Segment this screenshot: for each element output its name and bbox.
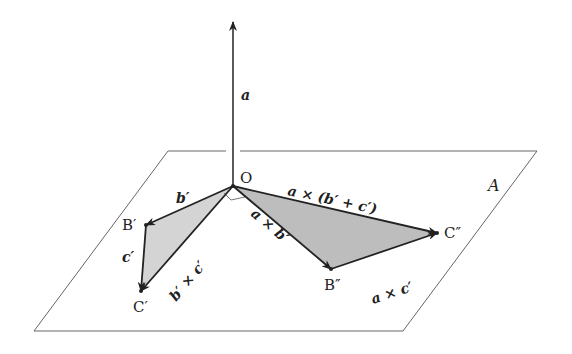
vector-diagram-svg: A O B′ C′ B″ C″ a b′ c′ b′ × c′ a × b′ a…	[0, 0, 572, 354]
point-B-double	[329, 267, 333, 271]
label-vector-a: a	[241, 87, 250, 103]
point-O	[231, 184, 235, 188]
diagram: A O B′ C′ B″ C″ a b′ c′ b′ × c′ a × b′ a…	[0, 0, 572, 354]
label-vector-a-cross-c: a × c′	[369, 278, 415, 307]
plane-label: A	[486, 176, 500, 195]
point-B-prime	[144, 223, 148, 227]
label-vector-b-cross-c: b′ × c′	[166, 257, 209, 304]
origin-label: O	[240, 169, 252, 187]
label-B-prime: B′	[122, 216, 137, 234]
point-C-prime	[139, 289, 143, 293]
point-C-double	[435, 231, 439, 235]
label-C-double: C″	[444, 224, 461, 242]
label-vector-c-prime: c′	[122, 249, 135, 265]
label-C-prime: C′	[133, 298, 148, 316]
label-vector-b-prime: b′	[176, 190, 190, 206]
label-B-double: B″	[324, 276, 341, 294]
